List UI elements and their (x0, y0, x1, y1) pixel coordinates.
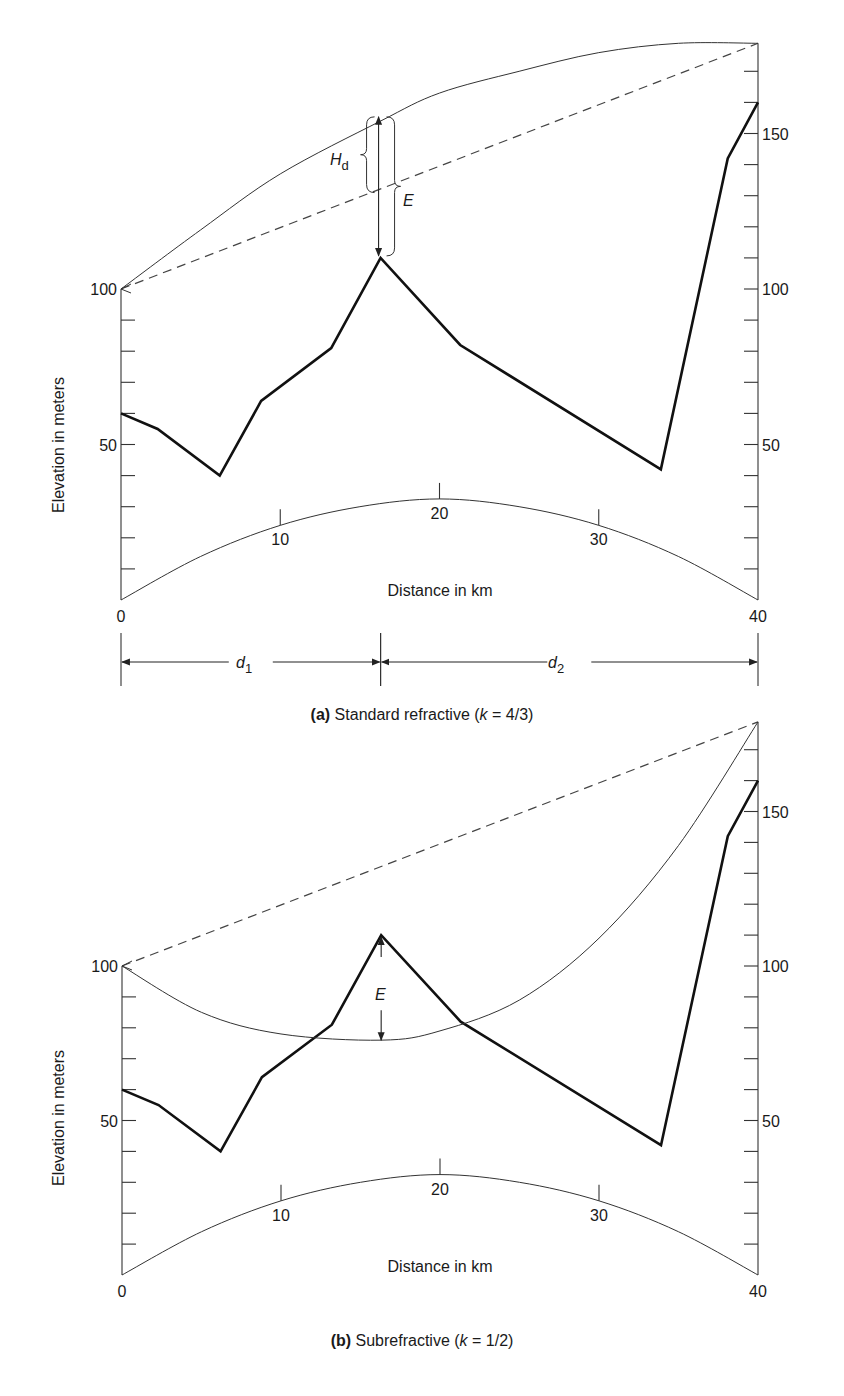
x-tick-label: 10 (271, 531, 289, 548)
x-axis-title-a: Distance in km (388, 582, 493, 599)
y-tick-label-right: 150 (762, 804, 789, 821)
x-axis-title-b: Distance in km (388, 1258, 493, 1275)
x-tick-label: 0 (118, 1283, 127, 1300)
y-tick-label-left: 100 (91, 958, 118, 975)
x-tick-label: 10 (272, 1207, 290, 1224)
terrain-profile-line (121, 102, 758, 475)
panel-b-plot: 5010050100150401020300 (91, 722, 789, 1300)
terrain-profile-line (122, 781, 758, 1152)
y-tick-label-left: 50 (100, 1113, 118, 1130)
y-tick-label-right: 100 (762, 281, 789, 298)
ray-path-curve (121, 43, 758, 289)
x-tick-label: 40 (749, 1283, 767, 1300)
caption-a: (a) Standard refractive (k = 4/3) (311, 706, 534, 723)
y-tick-label-left: 50 (99, 437, 117, 454)
e-label-a: E (403, 192, 414, 209)
y-tick-label-right: 100 (762, 958, 789, 975)
hd-brace (361, 117, 375, 193)
panel-a: 5010050100150401020300 Elevation in mete… (50, 43, 789, 723)
panel-b: 5010050100150401020300 Elevation in mete… (50, 722, 789, 1349)
x-tick-label: 30 (590, 1207, 608, 1224)
x-tick-label: 20 (431, 1181, 449, 1198)
line-of-sight (121, 43, 758, 289)
y-axis-title-b: Elevation in meters (50, 1050, 67, 1186)
line-of-sight (122, 722, 758, 966)
y-tick-label-left: 100 (90, 281, 117, 298)
y-axis-title-a: Elevation in meters (50, 377, 67, 513)
d1-label: d1 (236, 654, 252, 676)
d2-label: d2 (548, 654, 564, 676)
x-tick-label: 40 (749, 608, 767, 625)
y-tick-label-right: 50 (762, 1113, 780, 1130)
e-label-b: E (375, 986, 386, 1003)
x-tick-label: 0 (117, 608, 126, 625)
ray-path-curve (122, 722, 758, 1040)
x-tick-label: 20 (431, 505, 449, 522)
y-tick-label-right: 50 (762, 437, 780, 454)
y-tick-label-right: 150 (762, 126, 789, 143)
hd-label: Hd (330, 151, 349, 173)
figure-canvas: 5010050100150401020300 Elevation in mete… (0, 0, 844, 1396)
x-tick-label: 30 (590, 531, 608, 548)
caption-b: (b) Subrefractive (k = 1/2) (331, 1332, 514, 1349)
